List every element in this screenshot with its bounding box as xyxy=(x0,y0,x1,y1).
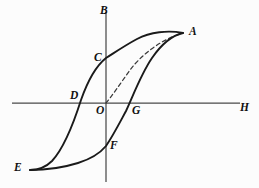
point-label-o: O xyxy=(96,105,104,117)
point-label-c: C xyxy=(94,52,102,64)
point-label-g: G xyxy=(132,105,140,117)
axis-label-h: H xyxy=(240,102,249,114)
hysteresis-diagram-canvas xyxy=(0,0,259,188)
point-label-a: A xyxy=(189,26,197,38)
point-label-e: E xyxy=(14,162,22,174)
point-label-f: F xyxy=(110,140,118,152)
axis-label-b: B xyxy=(100,5,108,17)
point-label-d: D xyxy=(70,90,78,102)
hysteresis-loop-figure: B H A C D E F G O xyxy=(0,0,259,188)
initial-magnetization-curve xyxy=(106,33,183,103)
